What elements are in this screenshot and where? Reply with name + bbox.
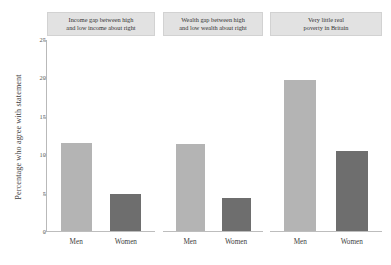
- y-tick-mark: [43, 117, 46, 118]
- y-tick-label: 10: [8, 152, 46, 158]
- panel-baseline: [270, 231, 382, 232]
- y-tick-mark: [43, 232, 46, 233]
- y-tick-mark: [43, 155, 46, 156]
- panel-title-line: Income gap between highand low income ab…: [66, 16, 135, 31]
- y-tick-mark: [43, 40, 46, 41]
- panel-title-line: Very little realpoverty in Britain: [304, 16, 349, 31]
- panel-plot-area: [163, 40, 263, 232]
- x-axis-label-men: Men: [275, 238, 325, 246]
- panel-baseline: [163, 231, 263, 232]
- bar-women[interactable]: [222, 198, 251, 231]
- bar-women[interactable]: [110, 194, 141, 231]
- bar-chart-figure: Percentage who agree with statement 0510…: [0, 0, 391, 265]
- y-tick-label: 0: [8, 229, 46, 235]
- panel-plot-area: [47, 40, 155, 232]
- y-axis-title: Percentage who agree with statement: [14, 42, 28, 232]
- y-tick-label: 20: [8, 75, 46, 81]
- y-tick-label: 5: [8, 191, 46, 197]
- y-tick-label: 15: [8, 114, 46, 120]
- panel-plot-area: [270, 40, 382, 232]
- panel-strip-title: Wealth gap between highand low wealth ab…: [163, 12, 263, 36]
- x-axis-label-women: Women: [211, 238, 261, 246]
- bar-men[interactable]: [284, 80, 316, 231]
- panel-baseline: [47, 231, 155, 232]
- y-tick-mark: [43, 194, 46, 195]
- panel-strip-title: Income gap between highand low income ab…: [47, 12, 155, 36]
- bar-women[interactable]: [336, 151, 368, 231]
- bar-men[interactable]: [61, 143, 92, 231]
- bar-men[interactable]: [176, 144, 205, 231]
- x-axis-label-men: Men: [51, 238, 101, 246]
- y-tick-mark: [43, 78, 46, 79]
- panel-title-line: Wealth gap between highand low wealth ab…: [179, 16, 247, 31]
- x-axis-label-women: Women: [101, 238, 151, 246]
- y-tick-label: 25: [8, 37, 46, 43]
- x-axis-label-men: Men: [165, 238, 215, 246]
- panel-strip-title: Very little realpoverty in Britain: [270, 12, 382, 36]
- x-axis-label-women: Women: [327, 238, 377, 246]
